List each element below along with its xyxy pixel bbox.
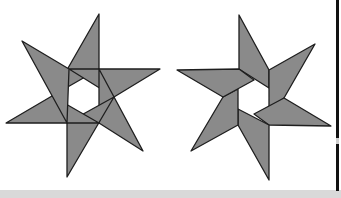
figure-canvas: [0, 0, 341, 198]
edge-notch: [336, 138, 339, 144]
right-star-arm-left: [177, 69, 254, 97]
edge-bar: [336, 0, 339, 191]
right-star-arm-upper-right: [269, 44, 315, 109]
left-star-arm-left: [6, 96, 99, 123]
bottom-strip: [0, 190, 341, 198]
right-star: [177, 15, 331, 180]
right-star-arm-right: [254, 98, 331, 126]
left-star-arm-right: [69, 69, 160, 97]
left-star: [6, 14, 160, 177]
right-star-arm-lower-left: [191, 89, 238, 151]
